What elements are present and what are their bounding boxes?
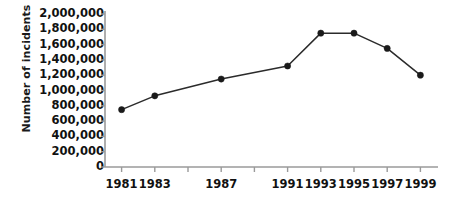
data-point-marker [318, 30, 324, 36]
data-point-marker [152, 93, 158, 99]
x-axis-tick-label: 1991 [272, 178, 304, 190]
data-point-marker [119, 107, 125, 113]
data-point-marker [218, 76, 224, 82]
data-point-marker [285, 63, 291, 69]
data-point-marker [351, 30, 357, 36]
x-axis-tick-labels: 19811983198719911993199519971999 [0, 178, 458, 198]
x-axis-tick-label: 1995 [338, 178, 370, 190]
x-axis-tick-label: 1999 [404, 178, 436, 190]
x-axis-tick-label: 1987 [205, 178, 237, 190]
x-axis-tick-label: 1981 [106, 178, 138, 190]
line-chart: Number of incidents 0200,000400,000600,0… [0, 0, 458, 211]
x-axis-tick-label: 1983 [139, 178, 171, 190]
data-series [119, 30, 424, 113]
x-axis-tick-label: 1993 [305, 178, 337, 190]
series-line [122, 33, 421, 110]
x-axis-tick-label: 1997 [371, 178, 403, 190]
axes [101, 11, 438, 172]
data-point-marker [417, 72, 423, 78]
data-point-marker [384, 45, 390, 51]
